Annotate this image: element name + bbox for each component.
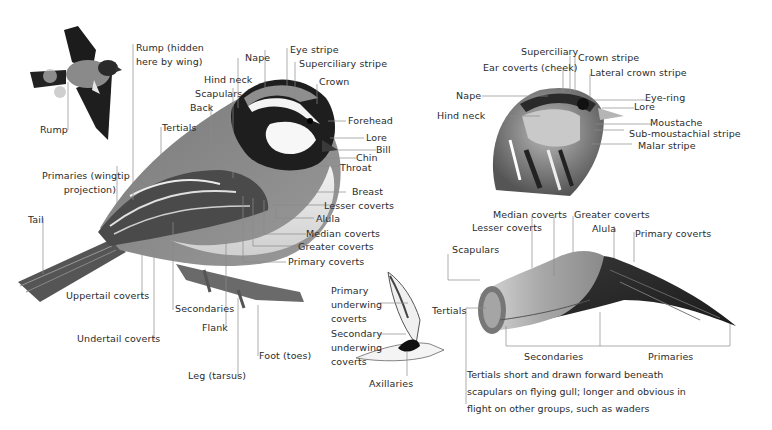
label-scapulars: Scapulars xyxy=(195,88,242,100)
label-nape-bunting: Nape xyxy=(456,90,481,102)
label-median-coverts: Median coverts xyxy=(306,228,380,240)
label-bill: Bill xyxy=(376,144,391,156)
label-superciliary-stripe: Superciliary stripe xyxy=(299,58,387,70)
tertials-note-line3: flight on other groups, such as waders xyxy=(467,400,686,417)
label-secondary-underwing-line3: coverts xyxy=(331,356,367,368)
label-lateral-crown-stripe: Lateral crown stripe xyxy=(590,67,687,79)
label-back: Back xyxy=(190,102,213,114)
label-primary-underwing-line2: underwing xyxy=(331,299,382,311)
tertials-note: Tertials short and drawn forward beneath… xyxy=(467,366,686,417)
label-tertials-gull: Tertials xyxy=(432,305,467,317)
label-greater-coverts-gull: Greater coverts xyxy=(574,209,650,221)
label-lore-bunting: Lore xyxy=(634,101,655,113)
label-hind-neck-bunting: Hind neck xyxy=(437,110,485,122)
label-crown-stripe: Crown stripe xyxy=(578,52,639,64)
label-foot-toes: Foot (toes) xyxy=(259,350,311,362)
label-rump-flying: Rump xyxy=(40,124,68,136)
label-secondaries: Secondaries xyxy=(175,303,234,315)
label-flank: Flank xyxy=(202,322,228,334)
label-eye-stripe: Eye stripe xyxy=(290,44,339,56)
label-uppertail-coverts: Uppertail coverts xyxy=(66,290,149,302)
label-sub-moustachial: Sub-moustachial stripe xyxy=(629,128,741,140)
label-scapulars-gull: Scapulars xyxy=(452,244,499,256)
label-primary-underwing-line3: coverts xyxy=(331,313,367,325)
label-axillaries: Axillaries xyxy=(369,378,413,390)
label-lore: Lore xyxy=(366,132,387,144)
label-hind-neck: Hind neck xyxy=(204,74,252,86)
label-primaries-gull: Primaries xyxy=(648,351,693,363)
label-tail: Tail xyxy=(28,214,44,226)
label-undertail-coverts: Undertail coverts xyxy=(77,333,160,345)
label-malar-stripe: Malar stripe xyxy=(638,140,696,152)
tertials-note-line1: Tertials short and drawn forward beneath xyxy=(467,366,686,383)
label-secondaries-gull: Secondaries xyxy=(524,351,583,363)
flying-tit-illustration xyxy=(30,26,122,140)
label-ear-coverts: Ear coverts (cheek) xyxy=(483,62,578,74)
gull-wing-illustration xyxy=(478,251,736,334)
label-leg-tarsus: Leg (tarsus) xyxy=(188,370,246,382)
tertials-note-line2: scapulars on flying gull; longer and obv… xyxy=(467,383,686,400)
label-secondary-underwing-line1: Secondary xyxy=(331,328,382,340)
label-alula-gull: Alula xyxy=(592,223,616,235)
label-tertials: Tertials xyxy=(162,122,197,134)
label-crown: Crown xyxy=(319,76,349,88)
label-primary-coverts-gull: Primary coverts xyxy=(635,228,711,240)
label-forehead: Forehead xyxy=(348,115,393,127)
label-breast: Breast xyxy=(352,186,383,198)
label-alula: Alula xyxy=(316,213,340,225)
label-median-coverts-gull: Median coverts xyxy=(493,209,567,221)
label-nape: Nape xyxy=(245,52,270,64)
bunting-head-illustration xyxy=(493,88,624,196)
label-greater-coverts: Greater coverts xyxy=(298,241,374,253)
label-primaries-line1: Primaries (wingtip xyxy=(42,170,116,182)
label-lesser-coverts-gull: Lesser coverts xyxy=(472,222,542,234)
label-primary-underwing-line1: Primary xyxy=(331,285,368,297)
label-secondary-underwing-line2: underwing xyxy=(331,342,382,354)
label-lesser-coverts: Lesser coverts xyxy=(324,200,394,212)
label-superciliary: Superciliary xyxy=(521,46,578,58)
label-rump-hidden-line1: Rump (hidden xyxy=(136,42,204,54)
label-rump-hidden-line2: here by wing) xyxy=(136,56,203,68)
label-primaries-line2: projection) xyxy=(42,184,116,196)
label-primary-coverts: Primary coverts xyxy=(288,256,364,268)
label-throat: Throat xyxy=(340,162,371,174)
